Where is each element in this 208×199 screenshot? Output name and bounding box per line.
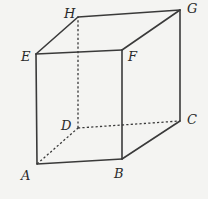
edge-he (36, 17, 78, 54)
vertex-label-a: A (20, 168, 30, 183)
edge-ea (36, 54, 37, 164)
edge-gh (78, 10, 180, 17)
vertex-labels: H G E F D C A B (20, 1, 197, 183)
vertex-label-b: B (113, 166, 124, 181)
cube-diagram: H G E F D C A B (0, 0, 208, 199)
vertex-label-g: G (187, 1, 197, 16)
vertex-label-h: H (63, 6, 76, 21)
edge-fg (122, 10, 180, 50)
vertex-label-c: C (187, 112, 197, 127)
edge-dc (78, 121, 180, 128)
hidden-edges (37, 17, 180, 164)
cube-drawing: H G E F D C A B (0, 0, 208, 199)
vertex-label-f: F (127, 49, 138, 64)
edge-ab (37, 159, 122, 164)
edge-ef (36, 50, 122, 54)
visible-edges (36, 10, 180, 164)
vertex-label-d: D (60, 118, 72, 133)
edge-ad (37, 128, 78, 164)
edge-bc (122, 121, 180, 159)
vertex-label-e: E (20, 49, 31, 64)
